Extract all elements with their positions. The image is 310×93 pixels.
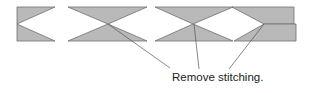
- end-piece-right-top: [232, 7, 294, 24]
- end-piece-left-bottom: [17, 24, 55, 41]
- leader-line-1: [108, 24, 170, 68]
- end-piece-left-top: [17, 7, 55, 24]
- bowtie-2-top: [155, 7, 233, 24]
- end-piece-right-bottom: [234, 24, 296, 41]
- bowtie-1-bottom: [68, 24, 147, 41]
- callout-label: Remove stitching.: [172, 71, 263, 83]
- stitching-diagram: [0, 0, 310, 93]
- bowtie-1-top: [68, 7, 147, 24]
- leader-line-3: [229, 24, 264, 69]
